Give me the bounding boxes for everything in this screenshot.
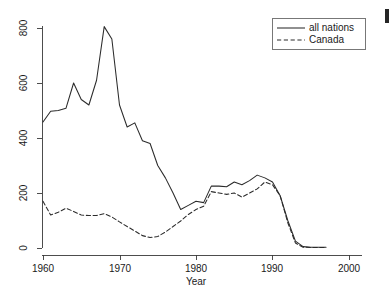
series-line-canada bbox=[43, 182, 326, 247]
chart-figure: 800 600 400 200 0 1960 1970 1980 1990 20… bbox=[0, 0, 390, 298]
x-tick-label-1970: 1970 bbox=[109, 263, 132, 274]
y-tick-label-800: 800 bbox=[18, 19, 29, 36]
series-group bbox=[43, 27, 326, 248]
y-axis-group: 800 600 400 200 0 bbox=[18, 19, 42, 251]
x-tick-label-1980: 1980 bbox=[185, 263, 208, 274]
y-tick-label-200: 200 bbox=[18, 184, 29, 201]
x-tick-label-1960: 1960 bbox=[32, 263, 55, 274]
legend-label-canada: Canada bbox=[309, 34, 344, 45]
legend-label-all-nations: all nations bbox=[309, 22, 354, 33]
y-tick-label-0: 0 bbox=[18, 245, 29, 251]
x-tick-label-2000: 2000 bbox=[338, 263, 361, 274]
y-tick-label-600: 600 bbox=[18, 74, 29, 91]
legend: all nations Canada bbox=[272, 18, 365, 49]
right-edge-artifact bbox=[385, 9, 389, 23]
series-line-all-nations bbox=[43, 27, 326, 248]
x-tick-label-1990: 1990 bbox=[261, 263, 284, 274]
y-tick-label-400: 400 bbox=[18, 129, 29, 146]
x-axis-title: Year bbox=[186, 276, 207, 287]
x-axis-group: 1960 1970 1980 1990 2000 Year bbox=[32, 255, 362, 287]
line-chart: 800 600 400 200 0 1960 1970 1980 1990 20… bbox=[0, 0, 390, 298]
